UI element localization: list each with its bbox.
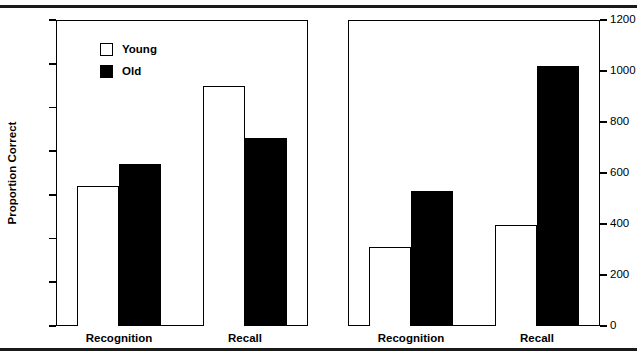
legend-label-old: Old: [122, 65, 141, 77]
y-tick-left-60: [49, 194, 56, 196]
y-tick-left-30: [49, 325, 56, 327]
y-tick-label-right-200: 200: [610, 269, 629, 281]
y-tick-left-40: [49, 281, 56, 283]
figure-container: Proportion Correct 30405060708090100 Rec…: [0, 0, 637, 359]
y-tick-left-90: [49, 63, 56, 65]
y-tick-left-70: [49, 150, 56, 152]
legend-swatch-old-icon: [100, 65, 113, 78]
y-tick-label-right-1200: 1200: [610, 14, 636, 26]
y-tick-right-200: [600, 274, 607, 276]
legend-swatch-young-icon: [100, 43, 113, 56]
legend-item-old: Old: [100, 60, 157, 82]
y-tick-label-right-1000: 1000: [610, 65, 636, 77]
legend-label-young: Young: [122, 43, 157, 55]
y-tick-right-0: [600, 325, 607, 327]
y-tick-right-400: [600, 223, 607, 225]
y-tick-right-600: [600, 172, 607, 174]
bar-right-recognition-young: [369, 247, 411, 326]
bar-left-recognition-young: [77, 186, 119, 326]
y-tick-label-right-0: 0: [610, 320, 616, 332]
y-tick-left-100: [49, 19, 56, 21]
y-tick-right-800: [600, 121, 607, 123]
y-tick-right-1200: [600, 19, 607, 21]
legend: Young Old: [100, 38, 157, 82]
y-tick-label-right-400: 400: [610, 218, 629, 230]
y-tick-right-1000: [600, 70, 607, 72]
legend-item-young: Young: [100, 38, 157, 60]
category-label-left-recognition: Recognition: [49, 332, 189, 344]
y-axis-title-left: Proportion Correct: [6, 122, 18, 225]
bar-right-recognition-old: [411, 191, 453, 326]
bar-right-recall-old: [537, 66, 579, 326]
figure-bottom-rule: [0, 348, 637, 351]
bar-left-recall-young: [203, 86, 245, 326]
category-label-right-recall: Recall: [467, 332, 607, 344]
figure-top-rule: [0, 5, 637, 8]
y-tick-label-right-800: 800: [610, 116, 629, 128]
bar-left-recall-old: [245, 138, 287, 326]
bar-left-recognition-old: [119, 164, 161, 326]
y-tick-left-80: [49, 107, 56, 109]
bar-right-recall-young: [495, 225, 537, 326]
bar-group-right: [348, 20, 600, 326]
y-tick-label-right-600: 600: [610, 167, 629, 179]
bar-group-left: [56, 20, 308, 326]
y-tick-left-50: [49, 238, 56, 240]
category-label-right-recognition: Recognition: [341, 332, 481, 344]
category-label-left-recall: Recall: [175, 332, 315, 344]
